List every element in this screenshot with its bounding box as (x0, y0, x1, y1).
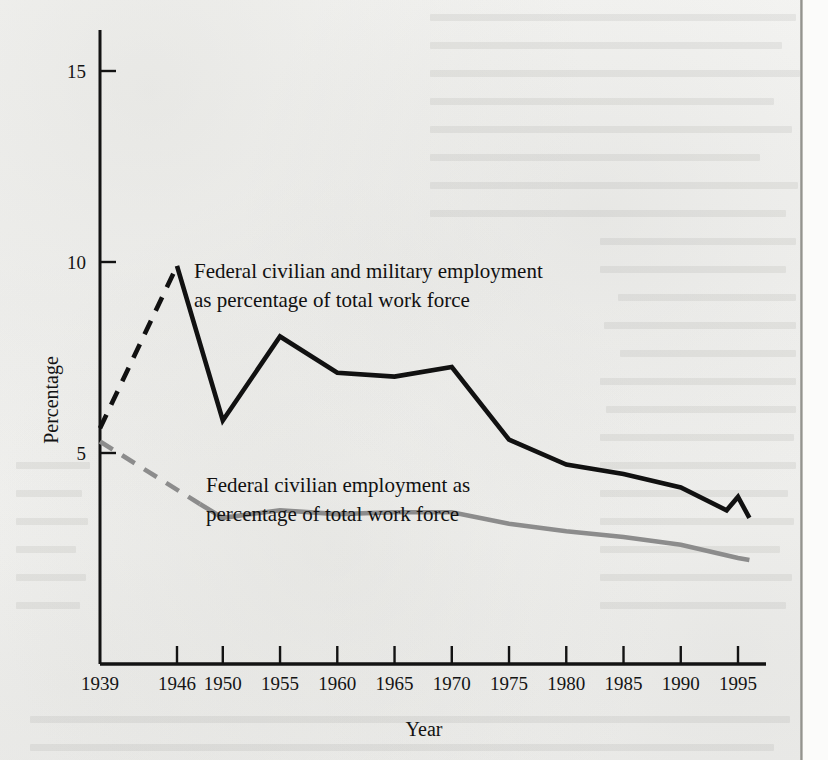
y-tick-label-15: 15 (67, 61, 86, 82)
series-1-dashed-segment (100, 442, 200, 505)
annotation-military-line-2: as percentage of total work force (194, 288, 470, 312)
x-tick-labels: 1939194619501955196019651970197519801985… (81, 673, 757, 694)
x-tick-label-1995: 1995 (719, 673, 757, 694)
annotation-civilian-line-1: Federal civilian employment as (206, 473, 470, 497)
annotation-civilian-line-2: percentage of total work force (206, 502, 459, 526)
x-tick-label-1975: 1975 (490, 673, 528, 694)
chart-annotations: Federal civilian and military employment… (194, 259, 543, 526)
x-axis-title: Year (406, 718, 443, 740)
chart-page: 51015 1939194619501955196019651970197519… (0, 0, 828, 760)
x-tick-label-1965: 1965 (376, 673, 414, 694)
annotation-military-line-1: Federal civilian and military employment (194, 259, 543, 283)
series-0-dashed-segment (100, 266, 177, 428)
x-tick-label-1939: 1939 (81, 673, 119, 694)
x-tick-label-1955: 1955 (261, 673, 299, 694)
x-tick-label-1970: 1970 (433, 673, 471, 694)
line-chart: 51015 1939194619501955196019651970197519… (0, 0, 828, 760)
x-tick-label-1946: 1946 (158, 673, 196, 694)
x-tick-marks (177, 646, 738, 664)
x-tick-label-1990: 1990 (662, 673, 700, 694)
y-tick-label-5: 5 (77, 443, 87, 464)
y-axis-title: Percentage (40, 356, 63, 444)
y-tick-label-10: 10 (67, 252, 86, 273)
y-tick-labels: 51015 (67, 61, 86, 464)
x-tick-label-1960: 1960 (318, 673, 356, 694)
x-tick-label-1985: 1985 (605, 673, 643, 694)
x-tick-label-1980: 1980 (547, 673, 585, 694)
page-margin (803, 0, 828, 760)
axes: 51015 1939194619501955196019651970197519… (67, 30, 766, 694)
x-tick-label-1950: 1950 (204, 673, 242, 694)
